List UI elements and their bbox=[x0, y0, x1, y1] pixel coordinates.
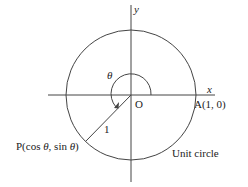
unit-circle-diagram: y x O A(1, 0) θ 1 P(cos θ, sin θ) Unit c… bbox=[0, 0, 248, 187]
point-p-label-suffix: ) bbox=[75, 140, 79, 153]
point-p-label: P(cos θ, sin θ) bbox=[16, 140, 79, 153]
angle-label: θ bbox=[107, 69, 113, 81]
x-axis-label: x bbox=[206, 83, 212, 95]
radius-label: 1 bbox=[104, 123, 110, 135]
y-axis-label: y bbox=[133, 3, 139, 15]
point-p-label-prefix: P(cos bbox=[16, 140, 43, 153]
origin-label: O bbox=[135, 98, 143, 110]
point-a-label: A(1, 0) bbox=[194, 98, 226, 111]
unit-circle-label: Unit circle bbox=[172, 147, 219, 159]
point-p-label-mid: , sin bbox=[49, 140, 70, 152]
